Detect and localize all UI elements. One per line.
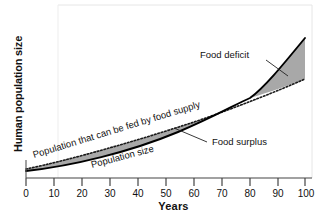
leader-line-food-surplus (174, 128, 207, 142)
x-axis-ticks (26, 178, 305, 186)
food-surplus-region (26, 98, 250, 171)
x-tick-label-10: 10 (48, 188, 60, 199)
population-size-curve (26, 38, 305, 171)
chart-plot-area: 0 10 20 30 40 50 60 70 80 90 100 Food de… (0, 0, 321, 221)
x-tick-label-40: 40 (132, 188, 144, 199)
x-tick-label-20: 20 (76, 188, 88, 199)
x-tick-label-60: 60 (188, 188, 200, 199)
annotation-food-surplus: Food surplus (212, 136, 267, 147)
x-tick-label-30: 30 (104, 188, 116, 199)
x-tick-label-0: 0 (23, 188, 29, 199)
x-tick-label-100: 100 (298, 188, 315, 199)
chart-figure: Human population size Years (0, 0, 321, 221)
x-tick-label-80: 80 (244, 188, 256, 199)
x-tick-label-50: 50 (160, 188, 172, 199)
x-tick-label-70: 70 (216, 188, 228, 199)
x-tick-label-90: 90 (272, 188, 284, 199)
annotation-food-deficit: Food deficit (200, 49, 249, 60)
